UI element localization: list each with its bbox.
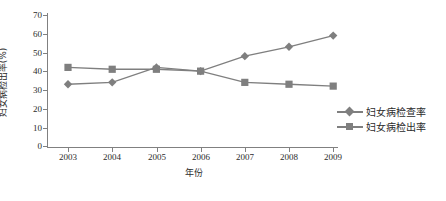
data-point bbox=[64, 64, 71, 71]
diamond-marker-icon bbox=[337, 106, 363, 118]
data-point bbox=[153, 66, 160, 73]
series-markers-detection-rate bbox=[64, 64, 336, 90]
legend: 妇女病检查率 妇女病检出率 bbox=[337, 104, 445, 134]
square-marker-icon bbox=[337, 121, 363, 133]
legend-item-detection-rate: 妇女病检出率 bbox=[337, 119, 445, 134]
data-point bbox=[330, 83, 337, 90]
series-line-examination-rate bbox=[68, 36, 333, 85]
series-markers-examination-rate bbox=[64, 31, 338, 88]
data-point bbox=[285, 43, 293, 51]
data-point bbox=[285, 81, 292, 88]
data-point bbox=[241, 79, 248, 86]
series-layer bbox=[0, 0, 446, 201]
data-point bbox=[108, 78, 116, 86]
legend-label-detection-rate: 妇女病检出率 bbox=[363, 119, 426, 134]
data-point bbox=[64, 80, 72, 88]
data-point bbox=[197, 68, 204, 75]
line-chart: 70 60 50 40 30 20 10 0 2003 2004 2005 20… bbox=[0, 0, 446, 201]
data-point bbox=[109, 66, 116, 73]
data-point bbox=[329, 31, 337, 39]
legend-label-examination-rate: 妇女病检查率 bbox=[363, 104, 426, 119]
legend-item-examination-rate: 妇女病检查率 bbox=[337, 104, 445, 119]
data-point bbox=[241, 52, 249, 60]
